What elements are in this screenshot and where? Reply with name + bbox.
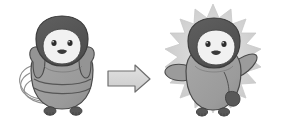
- belly-patch: [225, 91, 240, 106]
- right-eye-highlight: [68, 41, 70, 43]
- left-eye-highlight: [52, 41, 54, 43]
- penguin-transformation-illustration: [0, 0, 285, 135]
- left-eye: [205, 41, 210, 47]
- face-patch: [43, 29, 81, 64]
- left-eye: [51, 40, 56, 46]
- right-eye-highlight: [222, 42, 224, 44]
- right-eye: [67, 40, 72, 46]
- left-eye-highlight: [206, 42, 208, 44]
- illustration-canvas: Penguin before and after transformation …: [0, 0, 285, 135]
- face-patch: [197, 30, 235, 65]
- right-eye: [221, 41, 226, 47]
